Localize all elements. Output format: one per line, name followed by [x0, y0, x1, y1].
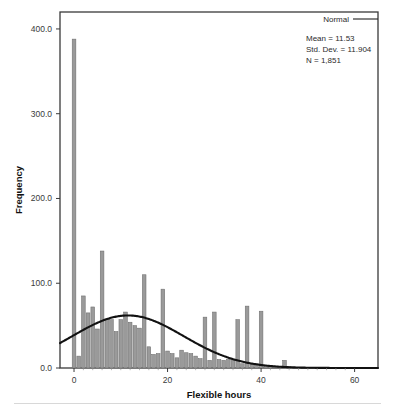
y-axis-tick-label: 200.0 — [31, 193, 53, 203]
histogram-bar — [175, 358, 179, 368]
histogram-bar — [147, 347, 151, 368]
x-axis-tick-label: 60 — [350, 375, 360, 385]
histogram-bar — [105, 319, 109, 368]
histogram-bar — [128, 322, 132, 368]
histogram-bar — [156, 354, 160, 368]
histogram-bar — [77, 356, 81, 368]
histogram-bar — [138, 328, 142, 368]
y-axis-title: Frequency — [13, 165, 24, 214]
x-axis-tick-label: 20 — [163, 375, 173, 385]
histogram-bar — [208, 360, 212, 368]
histogram-bar — [166, 351, 170, 368]
histogram-bar — [203, 317, 207, 368]
histogram-bar — [222, 360, 226, 368]
histogram-bar — [189, 354, 193, 368]
histogram-bar — [86, 313, 90, 368]
histogram-bar — [142, 275, 146, 368]
y-axis-tick-label: 300.0 — [31, 109, 53, 119]
stat-std-dev: Std. Dev. = 11.904 — [306, 45, 372, 54]
legend-label-normal: Normal — [323, 15, 349, 24]
histogram-bar — [194, 356, 198, 368]
y-axis-tick-label: 400.0 — [31, 24, 53, 34]
histogram-bar — [259, 311, 263, 368]
histogram-bar — [227, 360, 231, 368]
histogram-bar — [231, 360, 235, 368]
histogram-bar — [250, 365, 254, 368]
histogram-bar — [245, 306, 249, 368]
histogram-bar — [180, 350, 184, 368]
histogram-bar — [198, 359, 202, 368]
x-axis-tick-label: 0 — [72, 375, 77, 385]
histogram-bar — [110, 320, 114, 368]
histogram-bar — [170, 354, 174, 368]
plot-frame — [60, 12, 378, 368]
histogram-bar — [217, 360, 221, 368]
histogram-bar — [96, 329, 100, 368]
histogram-bar — [161, 289, 165, 368]
histogram-bar — [241, 364, 245, 368]
histogram-bar — [100, 251, 104, 368]
x-axis-title: Flexible hours — [187, 389, 251, 400]
histogram-bar — [114, 332, 118, 368]
histogram-bar — [91, 307, 95, 368]
stat-mean: Mean = 11.53 — [306, 34, 355, 43]
histogram-bar — [213, 312, 217, 368]
x-axis-tick-label: 40 — [256, 375, 266, 385]
histogram-bar — [133, 326, 137, 368]
histogram-bar — [72, 39, 76, 368]
y-axis-tick-label: 0.0 — [40, 363, 52, 373]
chart-canvas: 02040600.0100.0200.0300.0400.0Flexible h… — [0, 0, 395, 410]
histogram-bar — [82, 296, 86, 368]
histogram-bar — [119, 320, 123, 368]
histogram-bar — [152, 354, 156, 368]
histogram-figure: 02040600.0100.0200.0300.0400.0Flexible h… — [0, 0, 395, 410]
histogram-bar — [184, 353, 188, 368]
histogram-bar — [124, 312, 128, 368]
y-axis-tick-label: 100.0 — [31, 278, 53, 288]
stat-n: N = 1,851 — [306, 56, 341, 65]
footer-divider — [14, 403, 381, 404]
